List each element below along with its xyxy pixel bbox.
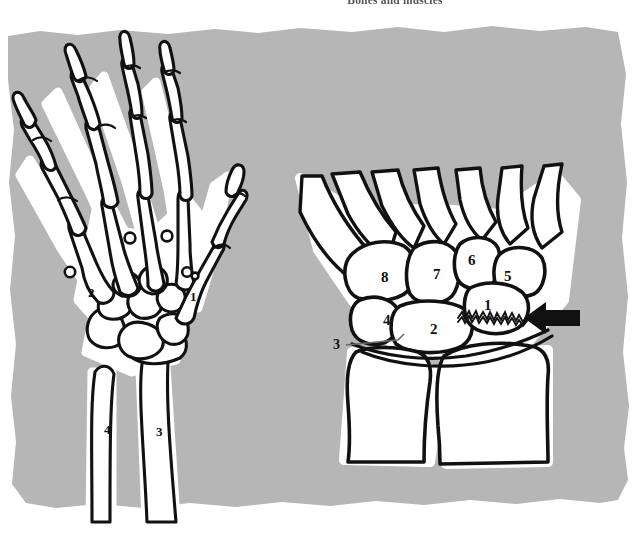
figure-hand-skeleton (13, 31, 247, 522)
carpal-label-8: 8 (381, 270, 389, 285)
carpal-label-2: 2 (430, 322, 438, 337)
figure-layer (0, 0, 642, 548)
hand-label-1: 1 (190, 290, 197, 303)
bone-1-scaphoid (464, 283, 528, 334)
carpal-label-4: 4 (383, 313, 391, 328)
figure-carpus-detail (300, 164, 580, 464)
carpal-label-3: 3 (333, 338, 340, 352)
carpal-label-6: 6 (468, 253, 476, 268)
illustration-page: Bones and muscles (0, 0, 642, 548)
hand-label-4: 4 (104, 423, 111, 436)
carpal-label-7: 7 (433, 267, 441, 282)
hand-label-2: 2 (88, 286, 95, 299)
hand-label-3: 3 (156, 425, 163, 438)
carpal-label-5: 5 (504, 269, 512, 284)
carpal-label-1: 1 (484, 298, 492, 313)
